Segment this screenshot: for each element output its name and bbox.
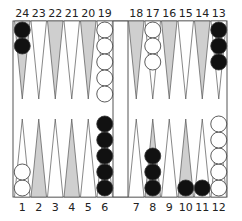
black-checker-point-8[interactable] xyxy=(145,180,161,196)
white-checker-point-1[interactable] xyxy=(14,164,30,180)
black-checker-point-6[interactable] xyxy=(97,164,113,180)
point-label-22: 22 xyxy=(48,7,62,20)
point-label-3: 3 xyxy=(52,201,59,214)
point-label-23: 23 xyxy=(32,7,46,20)
point-label-10: 10 xyxy=(179,201,193,214)
point-label-14: 14 xyxy=(195,7,209,20)
backgammon-board: 242322212019181716151413 123456789101112 xyxy=(0,0,242,221)
point-label-7: 7 xyxy=(133,201,140,214)
point-label-13: 13 xyxy=(212,7,226,20)
point-label-17: 17 xyxy=(146,7,160,20)
black-checker-point-11[interactable] xyxy=(194,180,210,196)
point-label-18: 18 xyxy=(129,7,143,20)
black-checker-point-10[interactable] xyxy=(178,180,194,196)
white-checker-point-12[interactable] xyxy=(211,148,227,164)
point-label-1: 1 xyxy=(19,201,26,214)
point-label-20: 20 xyxy=(81,7,95,20)
point-label-5: 5 xyxy=(85,201,92,214)
white-checker-point-12[interactable] xyxy=(211,132,227,148)
point-label-12: 12 xyxy=(212,201,226,214)
point-label-9: 9 xyxy=(166,201,173,214)
point-label-2: 2 xyxy=(35,201,42,214)
point-label-6: 6 xyxy=(101,201,108,214)
black-checker-point-6[interactable] xyxy=(97,132,113,148)
black-checker-point-8[interactable] xyxy=(145,148,161,164)
white-checker-point-12[interactable] xyxy=(211,116,227,132)
point-label-11: 11 xyxy=(195,201,209,214)
point-label-8: 8 xyxy=(149,201,156,214)
white-checker-point-19[interactable] xyxy=(97,38,113,54)
point-label-21: 21 xyxy=(65,7,79,20)
white-checker-point-19[interactable] xyxy=(97,54,113,70)
black-checker-point-13[interactable] xyxy=(211,54,227,70)
black-checker-point-24[interactable] xyxy=(14,22,30,38)
bar[interactable] xyxy=(113,21,128,197)
point-label-15: 15 xyxy=(179,7,193,20)
top-point-labels: 242322212019181716151413 xyxy=(15,7,226,20)
bottom-point-labels: 123456789101112 xyxy=(19,201,226,214)
point-label-19: 19 xyxy=(98,7,112,20)
white-checker-point-17[interactable] xyxy=(145,54,161,70)
white-checker-point-19[interactable] xyxy=(97,86,113,102)
black-checker-point-24[interactable] xyxy=(14,38,30,54)
point-label-4: 4 xyxy=(68,201,75,214)
black-checker-point-6[interactable] xyxy=(97,116,113,132)
white-checker-point-19[interactable] xyxy=(97,70,113,86)
white-checker-point-12[interactable] xyxy=(211,164,227,180)
point-label-24: 24 xyxy=(15,7,29,20)
point-label-16: 16 xyxy=(162,7,176,20)
white-checker-point-17[interactable] xyxy=(145,22,161,38)
black-checker-point-6[interactable] xyxy=(97,148,113,164)
black-checker-point-6[interactable] xyxy=(97,180,113,196)
white-checker-point-12[interactable] xyxy=(211,180,227,196)
white-checker-point-19[interactable] xyxy=(97,22,113,38)
white-checker-point-1[interactable] xyxy=(14,180,30,196)
black-checker-point-13[interactable] xyxy=(211,22,227,38)
black-checker-point-13[interactable] xyxy=(211,38,227,54)
white-checker-point-17[interactable] xyxy=(145,38,161,54)
black-checker-point-8[interactable] xyxy=(145,164,161,180)
